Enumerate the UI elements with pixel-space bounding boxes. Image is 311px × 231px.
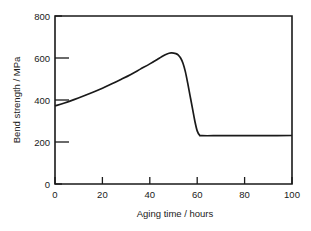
y-axis-title: Bend strength / MPa	[11, 56, 22, 143]
x-tick-label-0: 0	[52, 189, 57, 200]
x-tick-label-60: 60	[192, 189, 203, 200]
x-tick-labels: 0 20 40 60 80 100	[52, 189, 300, 200]
y-axis-ticks	[55, 16, 69, 184]
y-tick-label-600: 600	[34, 53, 50, 64]
x-axis-ticks	[55, 177, 292, 184]
plot-frame	[55, 16, 292, 184]
y-tick-label-0: 0	[45, 179, 50, 190]
chart-figure: 800 600 400 200 0 0 20 40 60 80 100 Agin…	[0, 0, 311, 231]
bend-strength-line-chart: 800 600 400 200 0 0 20 40 60 80 100 Agin…	[0, 0, 311, 231]
y-tick-label-200: 200	[34, 137, 50, 148]
y-tick-label-400: 400	[34, 95, 50, 106]
axis-frame-path	[55, 16, 292, 184]
x-tick-label-20: 20	[97, 189, 108, 200]
x-tick-label-100: 100	[284, 189, 300, 200]
x-tick-label-80: 80	[239, 189, 250, 200]
y-tick-labels: 800 600 400 200 0	[34, 11, 50, 190]
y-tick-label-800: 800	[34, 11, 50, 22]
x-axis-title: Aging time / hours	[137, 208, 214, 219]
x-tick-label-40: 40	[145, 189, 156, 200]
data-series-bend-strength	[55, 53, 292, 136]
